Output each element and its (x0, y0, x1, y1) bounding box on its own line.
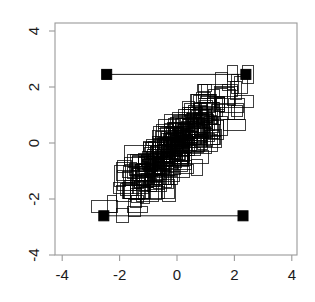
corner-marker (238, 211, 248, 221)
plot-canvas (0, 0, 315, 302)
x-tick-label: 4 (288, 267, 296, 282)
x-tick-label: -2 (113, 267, 126, 282)
data-rectangle (215, 73, 228, 89)
data-rectangle (227, 65, 238, 81)
corner-marker (102, 69, 112, 79)
y-tick-label: -4 (26, 248, 41, 261)
y-tick-label: 4 (26, 27, 41, 35)
scatter-plot-figure: -4-2024 -4-2024 (0, 0, 315, 302)
corner-marker (241, 69, 251, 79)
y-tick-label: -2 (26, 192, 41, 205)
x-tick-label: 2 (230, 267, 238, 282)
rectangle-cloud (92, 65, 254, 223)
y-tick-label: 2 (26, 83, 41, 91)
x-tick-label: -4 (56, 267, 69, 282)
x-tick-label: 0 (173, 267, 181, 282)
data-rectangle (223, 120, 245, 131)
y-tick-label: 0 (26, 139, 41, 147)
data-rectangle (191, 160, 203, 176)
corner-marker (99, 211, 109, 221)
data-rectangle (108, 196, 117, 213)
